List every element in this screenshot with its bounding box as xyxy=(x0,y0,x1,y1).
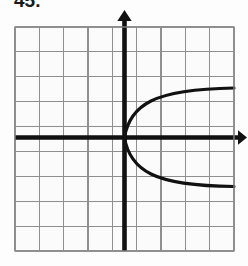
y-axis-arrow-icon xyxy=(117,10,131,21)
coordinate-graph xyxy=(0,0,248,266)
figure-container: 45. xyxy=(0,0,248,266)
x-axis-arrow-icon xyxy=(238,130,247,144)
